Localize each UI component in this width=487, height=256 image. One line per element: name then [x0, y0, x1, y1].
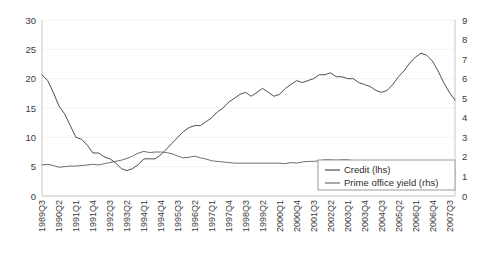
left-tick-label: 30 — [25, 15, 36, 26]
x-tick-label: 2000Q1 — [275, 200, 285, 232]
x-tick-label: 2007Q3 — [445, 200, 455, 232]
x-tick-label: 2000Q4 — [292, 200, 302, 232]
x-tick-label: 2006Q4 — [428, 200, 438, 232]
x-tick-label: 2002Q2 — [326, 200, 336, 232]
x-tick-label: 1994Q4 — [156, 200, 166, 232]
x-tick-label: 1992Q3 — [105, 200, 115, 232]
legend-label: Credit (lhs) — [344, 164, 390, 175]
right-tick-label: 2 — [462, 151, 467, 162]
left-tick-label: 10 — [25, 132, 36, 143]
x-tick-label: 2004Q3 — [377, 200, 387, 232]
x-axis-tick-labels: 1989Q31990Q21991Q11991Q41992Q31993Q21994… — [37, 200, 454, 232]
x-tick-label: 1999Q2 — [258, 200, 268, 232]
x-tick-label: 1993Q2 — [122, 200, 132, 232]
right-tick-label: 5 — [462, 93, 467, 104]
chart-container: 051015202530 0123456789 1989Q31990Q21991… — [0, 0, 487, 256]
x-tick-label: 1995Q3 — [173, 200, 183, 232]
x-tick-label: 2001Q3 — [309, 200, 319, 232]
right-tick-label: 6 — [462, 73, 467, 84]
x-tick-label: 1998Q3 — [241, 200, 251, 232]
left-tick-label: 25 — [25, 44, 36, 55]
right-tick-label: 3 — [462, 132, 467, 143]
legend-label: Prime office yield (rhs) — [344, 177, 438, 188]
right-tick-label: 1 — [462, 171, 467, 182]
x-tick-label: 2006Q1 — [411, 200, 421, 232]
right-tick-label: 4 — [462, 112, 467, 123]
x-tick-label: 1991Q4 — [88, 200, 98, 232]
x-tick-label: 2003Q4 — [360, 200, 370, 232]
right-tick-label: 7 — [462, 54, 467, 65]
left-tick-label: 5 — [31, 161, 36, 172]
right-tick-label: 0 — [462, 191, 467, 202]
left-tick-label: 20 — [25, 73, 36, 84]
x-tick-label: 1996Q2 — [190, 200, 200, 232]
data-series-group — [42, 53, 455, 171]
left-tick-label: 0 — [31, 191, 36, 202]
x-tick-label: 1990Q2 — [54, 200, 64, 232]
x-tick-label: 2003Q1 — [343, 200, 353, 232]
x-tick-label: 2005Q2 — [394, 200, 404, 232]
right-axis-tick-labels: 0123456789 — [462, 15, 467, 202]
x-tick-label: 1994Q1 — [139, 200, 149, 232]
chart-legend: Credit (lhs)Prime office yield (rhs) — [318, 160, 455, 190]
x-tick-label: 1997Q4 — [224, 200, 234, 232]
right-tick-label: 9 — [462, 15, 467, 26]
x-tick-label: 1989Q3 — [37, 200, 47, 232]
right-tick-label: 8 — [462, 34, 467, 45]
series-line-credit-lhs — [42, 53, 455, 170]
line-chart: 051015202530 0123456789 1989Q31990Q21991… — [0, 0, 487, 256]
x-tick-label: 1997Q1 — [207, 200, 217, 232]
left-tick-label: 15 — [25, 103, 36, 114]
left-axis-tick-labels: 051015202530 — [25, 15, 36, 202]
x-tick-label: 1991Q1 — [71, 200, 81, 232]
